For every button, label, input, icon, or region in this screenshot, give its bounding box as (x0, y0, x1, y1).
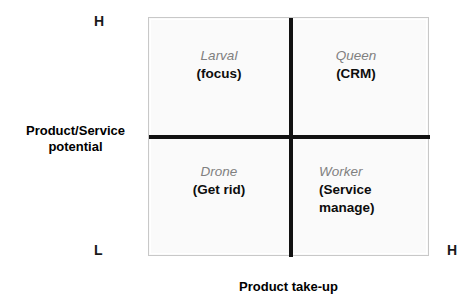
quadrant-queen-name: Queen (293, 47, 419, 65)
y-axis-low-label: L (94, 243, 103, 257)
y-axis-title-line-2: potential (8, 139, 143, 155)
quadrant-drone: Drone (Get rid) (149, 139, 289, 257)
quadrant-larval: Larval (focus) (149, 18, 289, 135)
quadrant-drone-name: Drone (149, 163, 289, 181)
quadrant-larval-name: Larval (149, 47, 289, 65)
quadrant-worker-description-line-2: manage) (319, 199, 419, 217)
x-axis-high-label: H (447, 243, 457, 257)
quadrant-queen-description: (CRM) (293, 65, 419, 83)
quadrant-drone-description-line-1: (Get rid) (149, 181, 289, 199)
y-axis-high-label: H (94, 14, 104, 28)
quadrant-drone-description: (Get rid) (149, 181, 289, 199)
quadrant-worker-name: Worker (319, 163, 419, 181)
quadrant-queen-description-line-1: (CRM) (293, 65, 419, 83)
quadrant-queen: Queen (CRM) (293, 18, 430, 135)
x-axis-title: Product take-up (148, 279, 429, 294)
quadrant-worker: Worker (Service manage) (293, 139, 430, 257)
y-axis-title-line-1: Product/Service (26, 123, 125, 138)
quadrant-worker-description-line-1: (Service (319, 181, 419, 199)
quadrant-worker-description: (Service manage) (319, 181, 419, 217)
quadrant-larval-description: (focus) (149, 65, 289, 83)
quadrant-larval-description-line-1: (focus) (149, 65, 289, 83)
two-by-two-matrix: Larval (focus) Queen (CRM) Drone (Get ri… (148, 17, 429, 256)
y-axis-title: Product/Service potential (8, 123, 143, 156)
